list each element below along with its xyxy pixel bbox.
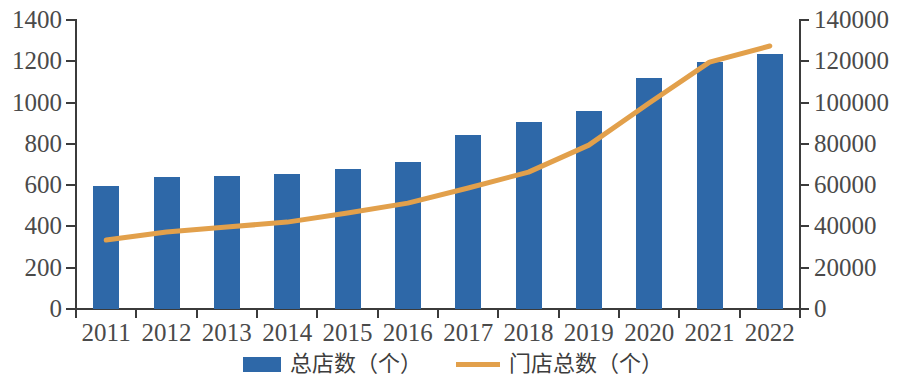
bar <box>697 62 723 309</box>
x-axis-tick <box>497 309 499 318</box>
legend-line-swatch-icon <box>456 362 500 367</box>
left-axis-tick <box>66 184 75 186</box>
x-axis-tick <box>678 309 680 318</box>
right-axis-tick <box>800 60 809 62</box>
bar <box>636 78 662 309</box>
line-path <box>106 46 770 240</box>
left-axis-tick <box>66 19 75 21</box>
right-axis-tick <box>800 143 809 145</box>
bar <box>335 169 361 309</box>
bar <box>757 54 783 309</box>
chart-legend: 总店数（个） 门店总数（个） <box>0 352 906 376</box>
bar <box>93 186 119 309</box>
right-axis-tick-label: 40000 <box>814 213 877 238</box>
x-axis-tick-label: 2022 <box>730 320 810 346</box>
dual-axis-chart: 0200400600800100012001400 02000040000600… <box>0 0 906 377</box>
right-axis-tick <box>800 267 809 269</box>
bar <box>274 174 300 309</box>
bar <box>154 177 180 309</box>
line-series-门店总数 <box>76 20 800 309</box>
right-axis-tick <box>800 308 809 310</box>
left-axis-tick <box>66 308 75 310</box>
x-axis-tick <box>558 309 560 318</box>
plot-area <box>76 20 800 309</box>
left-axis-tick <box>66 102 75 104</box>
legend-item-bar: 总店数（个） <box>243 352 422 376</box>
bar <box>455 135 481 309</box>
x-axis-tick <box>799 309 801 318</box>
x-axis-tick <box>377 309 379 318</box>
left-axis-tick <box>66 267 75 269</box>
left-axis-tick-label: 1200 <box>0 48 62 73</box>
left-axis-tick-label: 1000 <box>0 90 62 115</box>
x-axis-tick <box>75 309 77 318</box>
legend-label-bar: 总店数（个） <box>290 352 422 376</box>
right-axis-tick-label: 0 <box>814 296 827 321</box>
bar <box>214 176 240 309</box>
bar <box>516 122 542 309</box>
right-axis-tick-label: 140000 <box>814 7 889 32</box>
legend-item-line: 门店总数（个） <box>456 352 663 376</box>
right-axis-tick <box>800 225 809 227</box>
right-axis-tick <box>800 102 809 104</box>
right-axis-tick <box>800 19 809 21</box>
legend-bar-swatch-icon <box>243 357 281 372</box>
left-axis-tick <box>66 225 75 227</box>
left-axis-tick-label: 0 <box>0 296 62 321</box>
x-axis-tick <box>256 309 258 318</box>
left-axis-tick <box>66 60 75 62</box>
bar <box>576 111 602 309</box>
right-axis-tick-label: 20000 <box>814 255 877 280</box>
bar <box>395 162 421 309</box>
right-axis-tick-label: 100000 <box>814 90 889 115</box>
right-axis-tick-label: 80000 <box>814 131 877 156</box>
x-axis-tick <box>739 309 741 318</box>
right-axis-tick-label: 60000 <box>814 172 877 197</box>
left-axis-tick-label: 1400 <box>0 7 62 32</box>
legend-label-line: 门店总数（个） <box>509 352 663 376</box>
right-axis-tick <box>800 184 809 186</box>
x-axis-tick <box>437 309 439 318</box>
x-axis-tick <box>316 309 318 318</box>
left-axis-tick-label: 400 <box>0 213 62 238</box>
left-axis-tick-label: 200 <box>0 255 62 280</box>
left-axis-tick-label: 600 <box>0 172 62 197</box>
x-axis-tick <box>618 309 620 318</box>
left-axis-tick <box>66 143 75 145</box>
x-axis-tick <box>196 309 198 318</box>
right-axis-tick-label: 120000 <box>814 48 889 73</box>
x-axis-tick <box>135 309 137 318</box>
left-axis-tick-label: 800 <box>0 131 62 156</box>
